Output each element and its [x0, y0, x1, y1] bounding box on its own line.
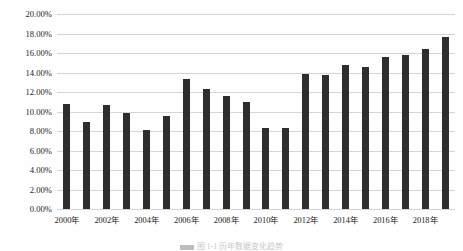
x-axis-tick-label: 2000年: [55, 213, 80, 225]
x-axis-tick-label: 2018年: [413, 213, 438, 225]
bar: [342, 65, 349, 209]
y-axis-labels: 0.00%2.00%4.00%6.00%8.00%10.00%12.00%14.…: [0, 14, 57, 209]
bar: [183, 79, 190, 209]
bar: [103, 105, 110, 209]
y-axis-tick-label: 6.00%: [30, 146, 52, 156]
bar: [402, 55, 409, 209]
bar: [382, 57, 389, 209]
x-axis-tick-label: 2002年: [94, 213, 119, 225]
bar: [282, 128, 289, 209]
bar: [123, 113, 130, 209]
y-axis-tick-label: 0.00%: [30, 204, 52, 214]
y-axis-tick-label: 16.00%: [26, 48, 53, 58]
x-axis-tick-label: 2016年: [373, 213, 398, 225]
bar: [223, 96, 230, 209]
y-axis-tick-label: 8.00%: [30, 126, 52, 136]
bar: [262, 128, 269, 209]
caption-text: 图 1-1 历年数据变化趋势: [197, 242, 284, 251]
bar: [422, 49, 429, 209]
bar: [362, 67, 369, 209]
x-axis-tick-label: 2006年: [174, 213, 199, 225]
x-axis-tick-label: 2014年: [333, 213, 358, 225]
caption-marker: [180, 245, 194, 250]
bar: [442, 37, 449, 209]
bar: [163, 116, 170, 209]
y-axis-tick-label: 14.00%: [26, 68, 53, 78]
bar: [203, 89, 210, 209]
x-axis-labels: 2000年2002年2004年2006年2008年2010年2012年2014年…: [57, 211, 455, 227]
y-axis-tick-label: 4.00%: [30, 165, 52, 175]
bar: [63, 104, 70, 209]
x-axis-tick-label: 2010年: [254, 213, 279, 225]
bar-series: [57, 14, 455, 209]
bar: [243, 102, 250, 209]
x-axis-tick-label: 2008年: [214, 213, 239, 225]
x-axis-tick-label: 2012年: [293, 213, 318, 225]
bar: [143, 130, 150, 209]
y-axis-tick-label: 12.00%: [26, 87, 53, 97]
x-axis-tick-label: 2004年: [134, 213, 159, 225]
figure-caption: 图 1-1 历年数据变化趋势: [0, 240, 463, 251]
y-axis-tick-label: 10.00%: [26, 107, 53, 117]
bar: [83, 122, 90, 209]
bar: [302, 74, 309, 209]
gridline: [57, 209, 455, 210]
y-axis-tick-label: 2.00%: [30, 185, 52, 195]
y-axis-tick-label: 18.00%: [26, 29, 53, 39]
y-axis-tick-label: 20.00%: [26, 9, 53, 19]
bar: [322, 75, 329, 209]
